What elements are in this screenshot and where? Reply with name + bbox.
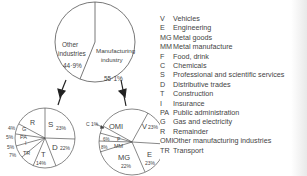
segment-T: T [41, 150, 46, 159]
legend-item: CChemicals [160, 61, 284, 70]
legend-item: FFood, drink [160, 52, 284, 61]
segment-V: V [142, 122, 147, 131]
other-industries-percent: 44·9% [63, 62, 82, 69]
segment-D-percent: 22% [60, 145, 71, 151]
segment-E-percent: 23% [145, 160, 156, 166]
legend-label: Engineering [173, 23, 211, 32]
legend-code: E [160, 23, 173, 32]
legend-label: Remainder [173, 127, 208, 136]
legend-item: OMIOther manufacturing industries [160, 136, 284, 145]
legend-code: F [160, 52, 173, 61]
legend-label: Other manufacturing industries [173, 136, 271, 145]
legend-item: PAPublic administration [160, 108, 284, 117]
segment-MM: MM [114, 143, 124, 149]
legend-item: DDistributive trades [160, 80, 284, 89]
other-industries-label: industries [58, 50, 87, 57]
segment-PA: PA [20, 134, 27, 140]
segment-D: D [52, 143, 58, 152]
segment-V-percent: 23% [148, 124, 159, 130]
legend-item: VVehicles [160, 14, 284, 23]
legend-label: Construction [173, 89, 213, 98]
legend-label: Metal manufacture [173, 42, 233, 51]
legend-item: SProfessional and scientific services [160, 70, 284, 79]
segment-I: I [25, 140, 26, 146]
legend-code: I [160, 99, 173, 108]
arrow-to-manufacturing-pie [119, 80, 126, 106]
legend-item: MGMetal goods [160, 33, 284, 42]
legend-code: T [160, 89, 173, 98]
segment-I-percent: 5% [7, 144, 15, 150]
pie-diagram: Other industries 44·9% Manufacturing ind… [0, 0, 160, 176]
legend-label: Chemicals [173, 61, 207, 70]
legend-item: EEngineering [160, 23, 284, 32]
segment-E: E [147, 150, 152, 159]
legend-code: V [160, 14, 173, 23]
segment-S-percent: 23% [56, 125, 67, 131]
legend-item: GGas and electricity [160, 117, 284, 126]
arrow-to-other-pie [58, 80, 66, 105]
legend-code: MG [160, 33, 173, 42]
legend-label: Metal goods [173, 33, 212, 42]
legend-item: RRemainder [160, 127, 284, 136]
segment-MM-percent: 8% [101, 145, 108, 150]
segment-T-percent: 14% [36, 160, 47, 166]
other-industries-label: Other [62, 41, 79, 48]
legend-code: D [160, 80, 173, 89]
segment-OMI: OMI [109, 122, 123, 131]
legend-code: S [160, 70, 173, 79]
legend-item: TConstruction [160, 89, 284, 98]
segment-TR: TR [23, 150, 30, 156]
segment-G: G [22, 126, 26, 132]
segment-PA-percent: 5% [6, 134, 14, 140]
segment-G-percent: 4% [8, 125, 16, 131]
legend-label: Distributive trades [173, 80, 231, 89]
legend-label: Insurance [173, 99, 205, 108]
manufacturing-percent: 55·1% [104, 75, 123, 82]
segment-S: S [48, 120, 53, 129]
legend-label: Professional and scientific services [173, 70, 284, 79]
segment-MG-percent: 22% [121, 163, 132, 169]
legend-label: Transport [173, 146, 204, 155]
segment-R: R [30, 119, 35, 126]
legend-code: PA [160, 108, 173, 117]
legend-code: TR [160, 146, 173, 155]
page-edge-shadow [291, 0, 307, 176]
legend-code: G [160, 117, 173, 126]
legend-code: R [160, 127, 173, 136]
manufacturing-label: Manufacturing [96, 47, 136, 54]
segment-F-percent: 6% [103, 137, 110, 142]
legend-item: TRTransport [160, 146, 284, 155]
legend: VVehicles EEngineering MGMetal goods MMM… [160, 14, 284, 155]
legend-code: MM [160, 42, 173, 51]
legend-label: Vehicles [173, 14, 200, 23]
legend-label: Food, drink [173, 52, 209, 61]
legend-item: IInsurance [160, 99, 284, 108]
segment-C-percent: C 1% [86, 121, 99, 127]
legend-label: Public administration [173, 108, 239, 117]
legend-code: C [160, 61, 173, 70]
segment-MG: MG [118, 153, 130, 162]
manufacturing-label: industry [101, 56, 124, 63]
legend-code: OMI [160, 136, 173, 145]
legend-item: MMMetal manufacture [160, 42, 284, 51]
segment-TR-percent: 7% [9, 152, 17, 158]
legend-label: Gas and electricity [173, 117, 232, 126]
